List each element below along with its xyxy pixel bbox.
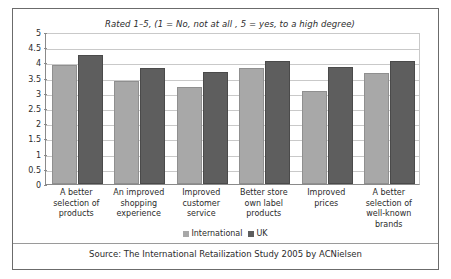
legend-item: UK xyxy=(248,229,267,238)
x-axis-tick-label: A betterselection ofproducts xyxy=(45,188,108,220)
x-axis-tick-label: Improvedcustomerservice xyxy=(170,188,233,220)
y-axis-tick-label: 3 xyxy=(19,89,41,98)
y-axis-tick-mark xyxy=(44,48,47,49)
bar-uk xyxy=(328,67,353,184)
plot-area xyxy=(45,33,420,185)
bar-international xyxy=(177,87,202,184)
bar-uk xyxy=(203,72,228,184)
x-axis-tick-label: Improvedprices xyxy=(295,188,358,209)
y-axis-tick-label: 0 xyxy=(19,181,41,190)
y-axis-tick-label: 1 xyxy=(19,150,41,159)
y-axis-tick-mark xyxy=(44,33,47,34)
y-axis: 54.543.532.521.510.50 xyxy=(16,33,41,185)
bar-international xyxy=(52,65,77,184)
footer-separator xyxy=(13,243,438,244)
bar-group xyxy=(296,34,359,184)
y-axis-tick-mark xyxy=(44,170,47,171)
bar-group xyxy=(109,34,172,184)
x-axis-tick-label: Better storeown labelproducts xyxy=(233,188,296,220)
y-axis-tick-label: 3.5 xyxy=(19,74,41,83)
legend-label: UK xyxy=(256,229,267,238)
legend-swatch-icon xyxy=(183,231,189,237)
y-axis-tick-mark xyxy=(44,63,47,64)
y-axis-tick-label: 4.5 xyxy=(19,44,41,53)
bar-uk xyxy=(265,61,290,184)
y-axis-tick-label: 5 xyxy=(19,29,41,38)
bar-international xyxy=(114,81,139,184)
y-axis-tick-mark xyxy=(44,139,47,140)
y-axis-tick-mark xyxy=(44,155,47,156)
y-axis-tick-mark xyxy=(44,94,47,95)
y-axis-tick-label: 4 xyxy=(19,59,41,68)
chart-legend: InternationalUK xyxy=(0,229,451,238)
y-axis-tick-mark xyxy=(44,124,47,125)
x-axis-tick-label: An improvedshoppingexperience xyxy=(108,188,171,220)
bar-uk xyxy=(78,55,103,184)
bar-uk xyxy=(140,68,165,184)
chart-figure: Rated 1–5, (1 = No, not at all , 5 = yes… xyxy=(0,0,451,279)
y-axis-tick-mark xyxy=(44,109,47,110)
chart-title: Rated 1–5, (1 = No, not at all , 5 = yes… xyxy=(30,19,430,29)
y-axis-tick-mark xyxy=(44,79,47,80)
bar-international xyxy=(239,68,264,184)
legend-label: International xyxy=(191,229,242,238)
legend-item: International xyxy=(183,229,242,238)
bar-group xyxy=(171,34,234,184)
bar-international xyxy=(364,73,389,184)
y-axis-tick-label: 2.5 xyxy=(19,105,41,114)
y-axis-tick-label: 1.5 xyxy=(19,135,41,144)
bar-international xyxy=(302,91,327,184)
y-axis-tick-mark xyxy=(44,185,47,186)
bar-uk xyxy=(390,61,415,184)
legend-swatch-icon xyxy=(248,231,254,237)
bar-group xyxy=(234,34,297,184)
bar-group xyxy=(46,34,109,184)
y-axis-tick-label: 0.5 xyxy=(19,165,41,174)
x-axis-tick-label: A betterselection ofwell-knownbrands xyxy=(358,188,421,230)
y-axis-tick-label: 2 xyxy=(19,120,41,129)
source-note: Source: The International Retailization … xyxy=(0,249,451,259)
bar-group xyxy=(359,34,422,184)
